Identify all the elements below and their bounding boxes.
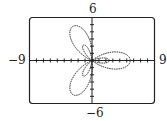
polar-plot <box>0 0 167 121</box>
